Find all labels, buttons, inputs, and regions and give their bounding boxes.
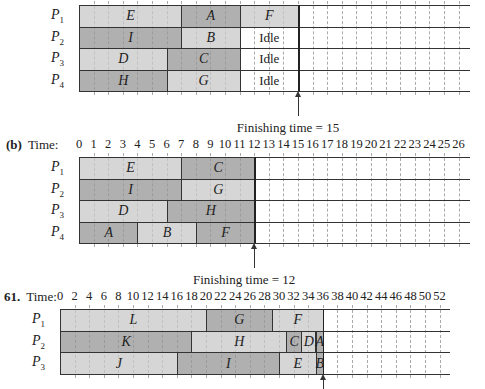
diagram-number: 61. [4, 289, 20, 304]
grid-line [352, 305, 353, 378]
idle-block: Idle [240, 48, 299, 71]
tick-label: 14 [277, 137, 290, 152]
tick-label: 16 [306, 137, 319, 152]
task-block: I [79, 179, 182, 202]
tick-label: 15 [292, 137, 305, 152]
tick-label: 40 [346, 289, 359, 304]
tick-label: 10 [219, 137, 232, 152]
tick-label: 32 [287, 289, 300, 304]
tick-label: 23 [409, 137, 422, 152]
processor-label: P4 [51, 224, 64, 242]
task-block: G [206, 309, 273, 332]
tick-label: 38 [331, 289, 344, 304]
tick-label: 30 [273, 289, 286, 304]
time-label: Time: [28, 137, 59, 152]
task-block: A [181, 5, 240, 28]
tick-label: 8 [115, 289, 121, 304]
idle-block: Idle [240, 27, 299, 50]
tick-label: 14 [156, 289, 169, 304]
processor-label: P1 [51, 159, 64, 177]
tick-label: 13 [263, 137, 276, 152]
tick-label: 12 [248, 137, 261, 152]
tick-label: 1 [90, 137, 96, 152]
task-block: E [279, 352, 317, 375]
processor-label: P3 [51, 202, 64, 220]
task-block: I [79, 27, 182, 50]
tick-label: 22 [214, 289, 227, 304]
tick-label: 50 [419, 289, 432, 304]
processor-label: P1 [32, 311, 45, 329]
tick-label: 25 [438, 137, 451, 152]
tick-label: 2 [105, 137, 111, 152]
task-block: F [196, 222, 255, 245]
grid-line [337, 305, 338, 378]
tick-label: 12 [141, 289, 154, 304]
task-block: H [191, 331, 287, 354]
task-block: D [79, 48, 168, 71]
tick-label: 52 [433, 289, 446, 304]
finishing-time-label: Finishing time = 15 [237, 120, 339, 136]
task-block: B [137, 222, 196, 245]
tick-label: 34 [302, 289, 315, 304]
tick-label: 6 [101, 289, 107, 304]
tick-label: 9 [207, 137, 213, 152]
processor-label: P2 [32, 333, 45, 351]
tick-label: 42 [360, 289, 373, 304]
finishing-arrow-icon [254, 248, 255, 268]
tick-label: 20 [200, 289, 213, 304]
grid-line [440, 305, 441, 378]
tick-label: 17 [321, 137, 334, 152]
finishing-time-label: Finishing time = 12 [193, 272, 295, 288]
tick-label: 48 [404, 289, 417, 304]
finishing-line [254, 157, 256, 243]
tick-label: 46 [390, 289, 403, 304]
task-block: G [167, 70, 241, 93]
finishing-arrow-icon [298, 96, 299, 116]
tick-label: 21 [379, 137, 392, 152]
tick-label: 18 [185, 289, 198, 304]
task-block: C [286, 331, 302, 354]
tick-label: 5 [149, 137, 155, 152]
tick-label: 36 [317, 289, 330, 304]
tick-label: 26 [244, 289, 257, 304]
tick-label: 4 [86, 289, 92, 304]
tick-label: 24 [229, 289, 242, 304]
tick-label: 6 [163, 137, 169, 152]
grid-line [410, 305, 411, 378]
time-label: Time: [26, 289, 57, 304]
tick-label: 10 [127, 289, 140, 304]
task-block: J [60, 352, 178, 375]
finishing-arrow-icon [323, 379, 324, 389]
task-block: L [60, 309, 207, 332]
time-axis-label: (b)Time: [6, 137, 58, 153]
processor-label: P2 [51, 29, 64, 47]
tick-label: 2 [71, 289, 77, 304]
task-block: A [79, 222, 138, 245]
tick-label: 16 [171, 289, 184, 304]
tick-label: 44 [375, 289, 388, 304]
diagram-number: (b) [6, 137, 22, 152]
task-block: E [79, 5, 182, 28]
processor-label: P3 [51, 50, 64, 68]
grid-line [367, 305, 368, 378]
task-block: F [272, 309, 324, 332]
tick-label: 3 [120, 137, 126, 152]
grid-line [381, 305, 382, 378]
tick-label: 26 [452, 137, 465, 152]
tick-label: 22 [394, 137, 407, 152]
task-block: H [79, 70, 168, 93]
tick-label: 8 [193, 137, 199, 152]
idle-block: Idle [240, 70, 299, 93]
processor-label: P1 [51, 7, 64, 25]
tick-label: 11 [234, 137, 246, 152]
task-block: D [79, 200, 168, 223]
tick-label: 4 [134, 137, 140, 152]
tick-label: 7 [178, 137, 184, 152]
task-block: B [181, 27, 240, 50]
tick-label: 24 [423, 137, 436, 152]
task-block: G [181, 179, 255, 202]
time-axis-label: 61.Time: [4, 289, 57, 305]
processor-label: P2 [51, 181, 64, 199]
processor-label: P3 [32, 354, 45, 372]
task-block: I [177, 352, 280, 375]
